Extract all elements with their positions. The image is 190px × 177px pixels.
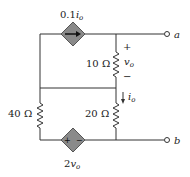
terminal-a-label: a — [174, 29, 180, 40]
io-arrow-icon — [121, 92, 125, 104]
current-source-label: 0.1io — [60, 9, 83, 22]
wires — [40, 34, 164, 140]
voltage-source-label: 2vo — [64, 158, 80, 171]
dependent-voltage-source: + − — [61, 128, 85, 152]
circuit-diagram: a b 0.1io + − 2vo 10 Ω + vo − io 40 Ω 20… — [0, 0, 190, 177]
terminal-b-label: b — [174, 135, 180, 146]
io-label: io — [128, 91, 135, 104]
vo-label: vo — [124, 56, 134, 69]
svg-text:+: + — [64, 136, 71, 145]
resistor-40-label: 40 Ω — [8, 108, 32, 119]
svg-text:−: − — [76, 136, 83, 145]
resistor-20-ohm — [113, 100, 119, 130]
terminal-b — [165, 138, 170, 143]
vo-minus: − — [123, 71, 131, 82]
resistor-40-ohm — [37, 100, 43, 130]
resistor-20-label: 20 Ω — [85, 108, 109, 119]
resistor-10-ohm — [113, 48, 119, 80]
vo-plus: + — [123, 41, 131, 52]
terminal-a — [165, 32, 170, 37]
dependent-current-source — [61, 22, 85, 46]
resistor-10-label: 10 Ω — [86, 58, 110, 69]
